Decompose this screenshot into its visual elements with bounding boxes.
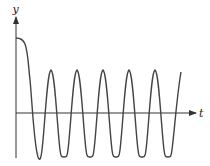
t-axis-label: t xyxy=(199,107,204,120)
y-axis-label: y xyxy=(12,3,20,16)
oscillation-figure: y t xyxy=(0,0,210,166)
oscillation-curve xyxy=(16,38,181,159)
